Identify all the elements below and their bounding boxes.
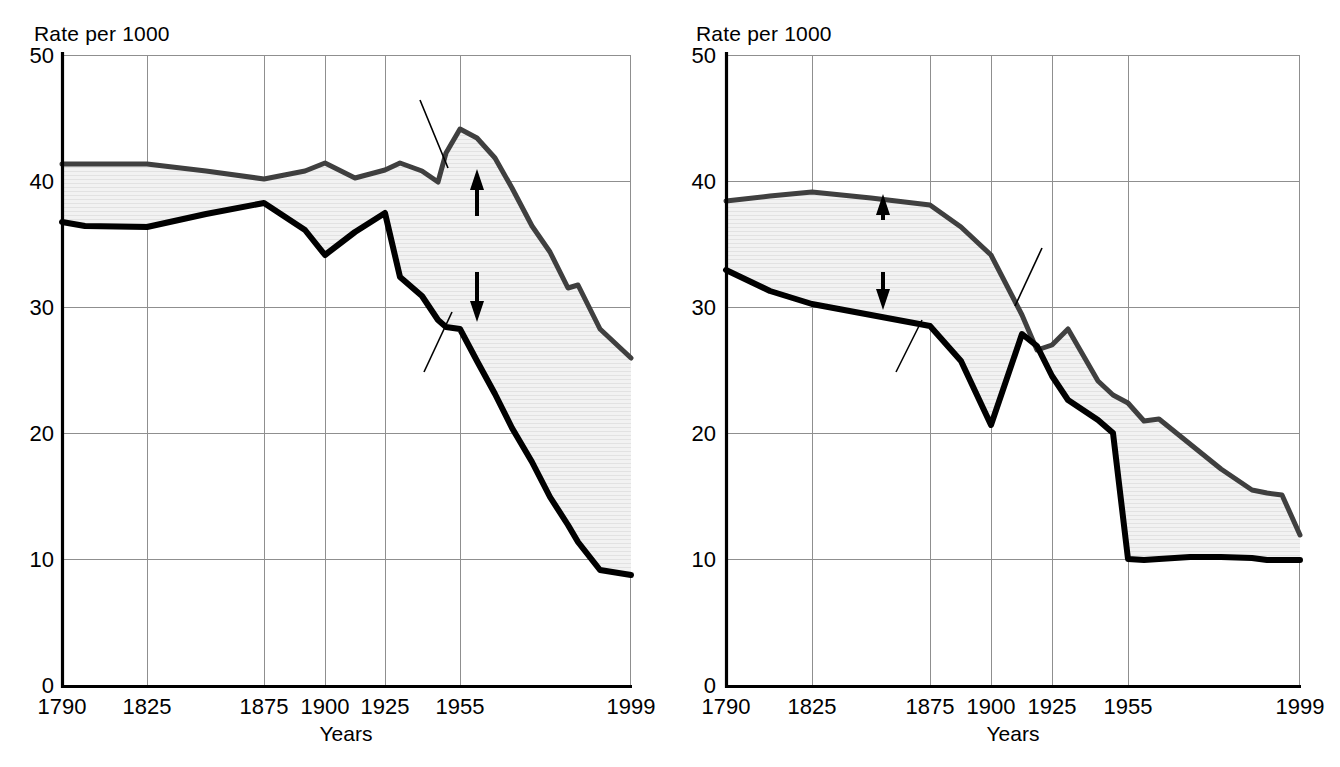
developing-countries-plot: [0, 0, 670, 767]
dual-line-chart-figure: Rate per 1000 Developing Countries 50 40…: [0, 0, 1340, 767]
developed-countries-plot: [670, 0, 1340, 767]
chart-panel-developing: Rate per 1000 Developing Countries 50 40…: [0, 0, 670, 767]
chart-panel-developed: Rate per 1000 Developed Countries 50 40 …: [670, 0, 1340, 767]
